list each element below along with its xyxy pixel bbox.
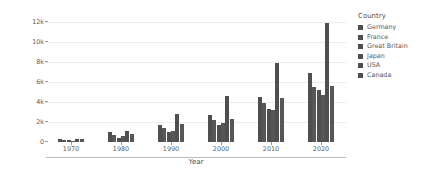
- legend-swatch-icon: [358, 54, 363, 59]
- legend-swatch-icon: [358, 44, 363, 49]
- x-axis-tick-label: 1990: [154, 146, 188, 152]
- bar: [330, 86, 334, 142]
- legend-items: GermanyFranceGreat BritainJapanUSACanada: [358, 23, 424, 80]
- gridline: [46, 82, 346, 83]
- legend-item[interactable]: France: [358, 33, 424, 42]
- y-axis-tick-label: 0: [10, 139, 44, 145]
- gridline: [46, 22, 346, 23]
- gridline: [46, 122, 346, 123]
- legend-item-label: Germany: [367, 24, 396, 30]
- gridline: [46, 42, 346, 43]
- legend-swatch-icon: [358, 25, 363, 30]
- x-axis-tick-label: 1970: [54, 146, 88, 152]
- bar: [280, 98, 284, 142]
- bar-chart-figure: Spending_USD 02k4k6k8k10k12k 19701980199…: [0, 0, 426, 175]
- legend-item-label: France: [367, 34, 388, 40]
- bar: [80, 139, 84, 142]
- legend-item-label: Japan: [367, 53, 385, 59]
- x-axis-tick-label: 2000: [204, 146, 238, 152]
- y-axis-tick-label: 6k: [10, 79, 44, 85]
- x-axis-tick-label: 2020: [304, 146, 338, 152]
- legend-item[interactable]: Canada: [358, 71, 424, 80]
- legend-item-label: USA: [367, 62, 380, 68]
- y-axis-tick-label: 4k: [10, 99, 44, 105]
- legend-title: Country: [358, 13, 424, 20]
- legend-item[interactable]: Japan: [358, 52, 424, 61]
- legend-item[interactable]: USA: [358, 61, 424, 70]
- x-axis-label: Year: [46, 159, 346, 166]
- legend-swatch-icon: [358, 73, 363, 78]
- legend-item[interactable]: Great Britain: [358, 42, 424, 51]
- bar: [230, 119, 234, 142]
- x-axis-tick-label: 2010: [254, 146, 288, 152]
- legend-item[interactable]: Germany: [358, 23, 424, 32]
- gridline: [46, 62, 346, 63]
- x-axis-tick-label: 1980: [104, 146, 138, 152]
- gridlines: [46, 16, 346, 142]
- legend-item-label: Great Britain: [367, 43, 408, 49]
- legend-swatch-icon: [358, 63, 363, 68]
- bar: [130, 134, 134, 142]
- plot-area: [46, 16, 346, 142]
- y-axis-tick-label: 8k: [10, 59, 44, 65]
- legend-swatch-icon: [358, 35, 363, 40]
- gridline: [46, 102, 346, 103]
- legend: Country GermanyFranceGreat BritainJapanU…: [358, 13, 424, 80]
- bar: [180, 124, 184, 142]
- y-axis-tick-label: 10k: [10, 39, 44, 45]
- y-axis-tick-label: 12k: [10, 19, 44, 25]
- legend-item-label: Canada: [367, 72, 391, 78]
- y-axis-tick-label: 2k: [10, 119, 44, 125]
